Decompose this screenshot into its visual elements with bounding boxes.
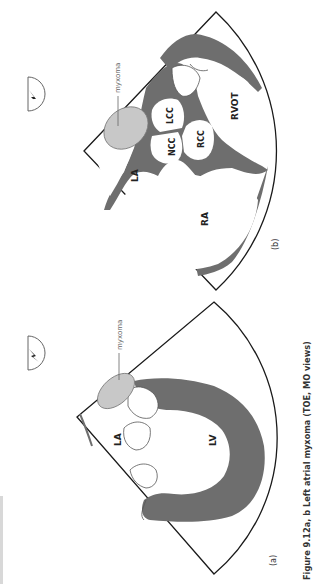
- panel-b-rvot-label: RVOT: [230, 92, 240, 120]
- panel-b: myxoma LA RA RVOT NCC LCC RCC (b): [28, 12, 280, 290]
- panel-b-la-label: LA: [130, 169, 140, 182]
- panel-a-myxoma-label: myxoma: [116, 320, 124, 350]
- panel-b-lcc-label: LCC: [166, 107, 175, 124]
- panel-a-label: (a): [269, 555, 278, 566]
- panel-b-ncc-label: NCC: [168, 137, 177, 156]
- figure-caption: Figure 9.12a, b Left atrial myxoma (TOE,…: [302, 341, 312, 580]
- panel-a-la-label: LA: [113, 433, 123, 446]
- panel-a-lv-label: LV: [208, 435, 218, 446]
- panel-a: myxoma LA LV (a): [28, 302, 278, 574]
- figure-canvas: myxoma LA RA RVOT NCC LCC RCC (b): [0, 0, 316, 585]
- panel-b-myxoma-label: myxoma: [114, 63, 122, 93]
- panel-b-probe-orientation-icon: [28, 77, 45, 111]
- panel-b-rcc-label: RCC: [197, 130, 206, 148]
- panel-a-mitral-leaflet-posterior: [130, 464, 157, 488]
- panel-b-ra-label: RA: [200, 212, 210, 226]
- panel-b-label: (b): [271, 239, 280, 250]
- panel-a-probe-orientation-icon: [28, 336, 45, 370]
